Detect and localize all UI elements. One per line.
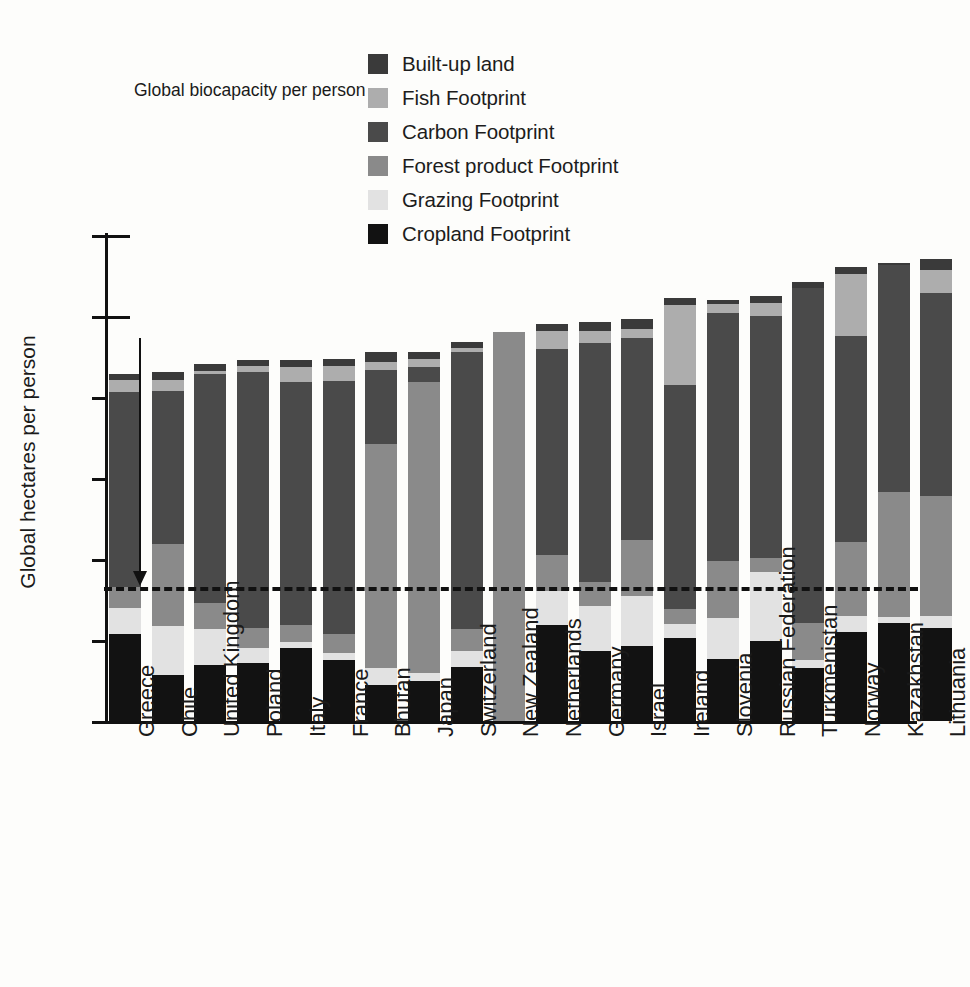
bar-segment [536,324,568,331]
x-axis-label: Bhutan [390,667,416,737]
x-axis-label: Turkmenistan [817,605,843,737]
y-tick-mark-inner [108,316,130,319]
bar-segment [323,634,355,653]
legend-item[interactable]: Fish Footprint [368,86,618,110]
x-axis-label: Japan [433,677,459,737]
bar-segment [664,609,696,624]
bar-segment [878,263,910,265]
biocapacity-arrow-head [133,571,147,586]
x-axis-label: France [348,669,374,737]
bar-segment [621,329,653,338]
x-axis-label: Slovenia [732,653,758,737]
stacked-bar[interactable] [365,352,397,721]
legend-item-label: Built-up land [402,52,515,76]
bar-segment [579,582,611,606]
bar-segment [835,274,867,336]
bar-segment [621,319,653,329]
bar-segment [579,322,611,332]
x-axis-label: Germany [604,647,630,737]
chart-legend: Built-up landFish FootprintCarbon Footpr… [368,52,618,246]
bar-segment [280,360,312,367]
x-axis-label: United Kingdom [219,580,245,737]
bar-segment [365,444,397,668]
bar-segment [109,374,141,380]
x-axis-label: Greece [134,665,160,737]
plot-area: 0123456 Global biocapacity per person Gr… [106,235,916,721]
bar-segment [280,367,312,382]
bar-segment [365,352,397,362]
bar-segment [152,372,184,380]
bar-segment [194,364,226,371]
bar-segment [878,492,910,617]
y-tick-mark [92,235,106,238]
bar-segment [237,366,269,372]
legend-item-label: Grazing Footprint [402,188,559,212]
bar-segment [536,555,568,591]
y-tick-mark [92,316,106,319]
x-axis-label: Poland [262,668,288,737]
x-axis-label: Kazakhstan [903,622,929,737]
bar-segment [109,608,141,633]
bar-segment [451,342,483,348]
stacked-bar[interactable] [664,298,696,721]
bar-segment [194,371,226,374]
x-axis-label: Norway [860,662,886,737]
legend-swatch-icon [368,190,388,210]
y-tick-mark [92,640,106,643]
x-axis-label: Switzerland [476,623,502,737]
bar-segment [707,313,739,562]
bar-segment [664,385,696,609]
x-axis-label: Italy [305,697,331,737]
legend-item[interactable]: Built-up land [368,52,618,76]
stacked-bar[interactable] [280,360,312,721]
legend-item-label: Forest product Footprint [402,154,618,178]
bar-segment [621,338,653,540]
x-axis-label: Netherlands [561,618,587,737]
legend-item-label: Fish Footprint [402,86,526,110]
legend-item[interactable]: Carbon Footprint [368,120,618,144]
bar-segment [323,366,355,381]
bar-segment [323,359,355,366]
x-axis-label: Chile [177,687,203,737]
bar-segment [664,305,696,384]
x-axis-label: Lithuania [945,648,970,737]
bar-segment [664,624,696,638]
stacked-bar[interactable] [408,352,440,721]
bar-segment [707,300,739,304]
bar-segment [878,265,910,492]
y-tick-mark-inner [108,235,130,238]
bar-segment [920,259,952,270]
bar-segment [750,303,782,316]
y-tick-mark [92,559,106,562]
bar-segment [323,653,355,660]
bar-segment [750,316,782,558]
bar-segment [920,496,952,616]
bar-segment [237,360,269,366]
bar-segment [365,370,397,444]
bar-segment [579,331,611,342]
biocapacity-annotation-label: Global biocapacity per person [134,80,366,101]
bar-segment [536,331,568,349]
bar-segment [835,267,867,274]
legend-item[interactable]: Grazing Footprint [368,188,618,212]
bar-segment [451,348,483,352]
legend-swatch-icon [368,122,388,142]
bar-segment [750,296,782,303]
bar-segment [408,359,440,367]
bar-segment [152,544,184,627]
bar-segment [664,298,696,305]
bar-segment [280,625,312,642]
bar-segment [408,382,440,674]
biocapacity-arrow-shaft [139,338,141,573]
bar-segment [707,304,739,313]
bar-segment [280,642,312,648]
x-axis-label: Russian Federation [775,546,801,737]
bar-segment [920,270,952,293]
stacked-bar[interactable] [323,359,355,721]
legend-item[interactable]: Forest product Footprint [368,154,618,178]
bar-segment [835,336,867,542]
bar-segment [152,391,184,544]
bar-segment [536,349,568,555]
bar-segment [621,596,653,645]
y-tick-mark [92,721,106,724]
